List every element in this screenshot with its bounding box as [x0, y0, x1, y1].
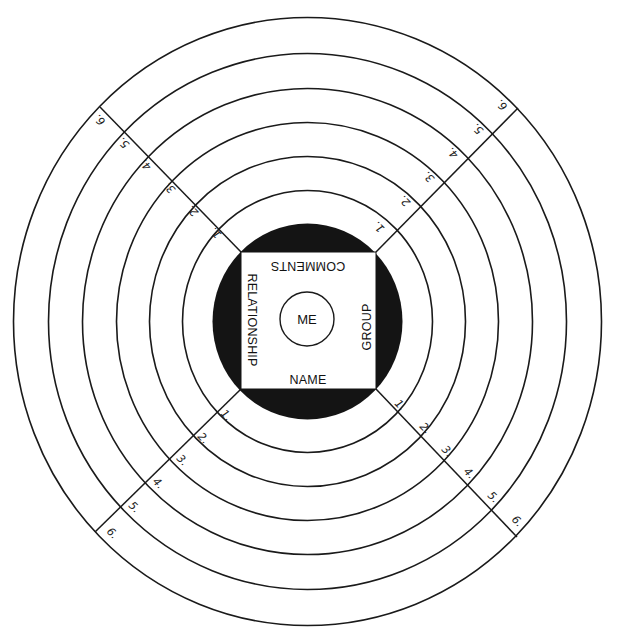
ring-number: 4.	[150, 475, 167, 492]
ring-number: 6.	[509, 513, 526, 530]
ring-number: 5.	[126, 499, 143, 516]
square-label-comments: COMMENTS	[271, 259, 346, 273]
square-label-group: GROUP	[360, 304, 374, 351]
target-diagram: ME NAME COMMENTS RELATIONSHIP GROUP 1. 2…	[0, 0, 619, 643]
ring-number: 3.	[421, 168, 438, 185]
ring-number: 1.	[371, 218, 388, 235]
ring-number: 2.	[397, 192, 414, 209]
ring-number: 2.	[185, 202, 202, 219]
ring-number: 6.	[92, 111, 109, 128]
ring-number: 6.	[104, 525, 121, 542]
ring-number: 4.	[445, 144, 462, 161]
ring-number: 5.	[470, 120, 487, 137]
numbers-top-left: 1. 2. 3. 4. 5. 6.	[92, 111, 225, 241]
numbers-top-right: 1. 2. 3. 4. 5. 6.	[371, 96, 511, 235]
ring-number: 3.	[162, 179, 179, 196]
numbers-bottom-left: 1. 2. 3. 4. 5. 6.	[104, 407, 235, 542]
ring-number: 1.	[392, 397, 409, 414]
spoke-bottom-left	[95, 389, 241, 532]
ring-number: 4.	[138, 156, 155, 173]
square-label-relationship: RELATIONSHIP	[245, 273, 259, 366]
spoke-top-right	[376, 108, 518, 252]
numbers-bottom-right: 1. 2. 3. 4. 5. 6.	[392, 397, 526, 530]
me-label: ME	[297, 312, 317, 327]
square-label-name: NAME	[290, 373, 327, 387]
ring-number: 4.	[461, 465, 478, 482]
